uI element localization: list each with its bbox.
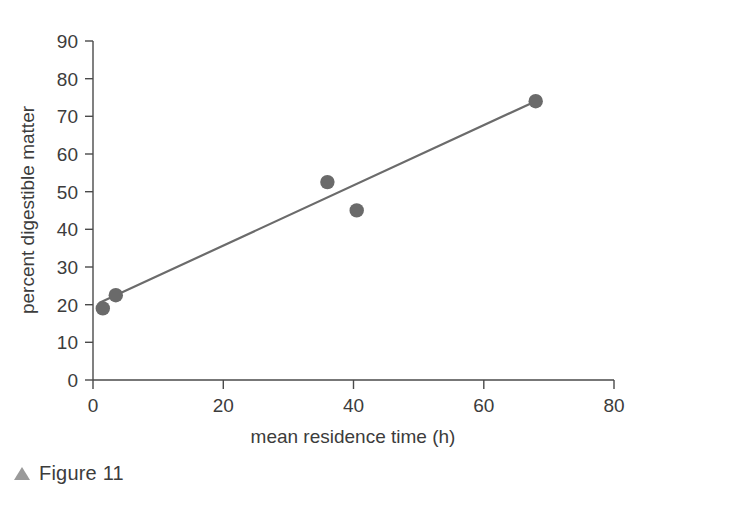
x-axis-tick-labels: 0 20 40 60 80 — [88, 395, 625, 416]
x-tick-label: 20 — [213, 395, 234, 416]
x-tick-label: 80 — [603, 395, 624, 416]
data-point — [529, 94, 543, 108]
x-tick-label: 0 — [88, 395, 99, 416]
y-tick-label: 60 — [57, 144, 78, 165]
figure-container: 0 10 20 30 40 50 60 70 80 90 0 20 40 60 … — [0, 0, 732, 506]
y-tick-label: 70 — [57, 106, 78, 127]
scatter-plot: 0 10 20 30 40 50 60 70 80 90 0 20 40 60 … — [0, 0, 732, 460]
data-point — [109, 288, 123, 302]
y-tick-label: 50 — [57, 182, 78, 203]
y-tick-label: 0 — [67, 370, 78, 391]
x-tick-label: 40 — [343, 395, 364, 416]
data-point — [320, 175, 334, 189]
y-tick-label: 90 — [57, 31, 78, 52]
y-tick-label: 40 — [57, 219, 78, 240]
x-axis-title: mean residence time (h) — [251, 426, 456, 447]
data-point — [96, 301, 110, 315]
figure-caption: Figure 11 — [14, 462, 124, 485]
x-axis-ticks — [93, 380, 614, 389]
y-tick-label: 80 — [57, 69, 78, 90]
trend-line — [100, 101, 536, 303]
data-points-group — [96, 94, 543, 316]
triangle-up-icon — [14, 467, 30, 480]
y-tick-label: 10 — [57, 332, 78, 353]
y-tick-label: 30 — [57, 257, 78, 278]
figure-caption-label: Figure 11 — [39, 462, 124, 485]
y-axis-title: percent digestible matter — [17, 105, 38, 314]
y-axis-ticks — [85, 41, 93, 380]
data-point — [350, 203, 364, 217]
y-tick-label: 20 — [57, 295, 78, 316]
y-axis-tick-labels: 0 10 20 30 40 50 60 70 80 90 — [57, 31, 78, 391]
x-tick-label: 60 — [473, 395, 494, 416]
